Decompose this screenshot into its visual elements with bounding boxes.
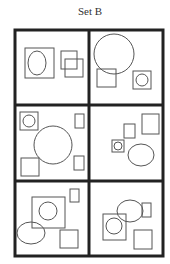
cell-5: [17, 189, 79, 248]
cell-6: [103, 200, 152, 249]
set-b-diagram: [0, 0, 170, 264]
cell-2: [94, 34, 151, 89]
grid-frame: [15, 30, 163, 256]
cell-1: [25, 48, 83, 78]
cell-4: [112, 114, 159, 166]
cell-3: [20, 112, 84, 176]
